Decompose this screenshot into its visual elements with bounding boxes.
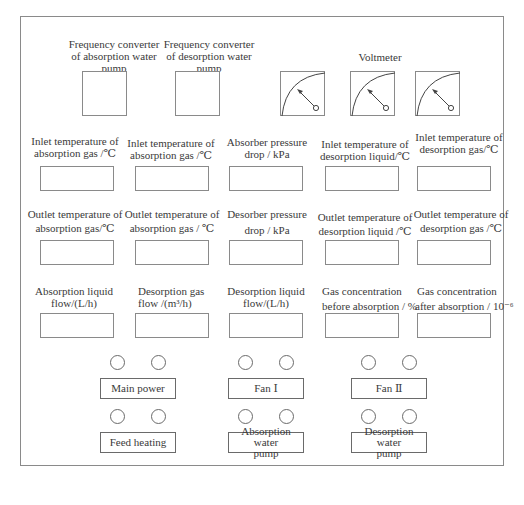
inlet-temp-absorption-gas-display-2[interactable] (135, 166, 209, 191)
fan-1-lamp-1[interactable] (238, 355, 253, 370)
absorption-liquid-flow-display[interactable] (40, 313, 114, 338)
inlet-temp-desorption-liquid-display[interactable] (325, 166, 399, 191)
converter-desorption-display[interactable] (175, 71, 220, 116)
inlet-temp-absorption-gas-display[interactable] (40, 166, 114, 191)
label-line: Frequency converter (64, 38, 164, 50)
voltmeter-gauge-3 (415, 71, 460, 116)
display-label: Gas concentrationafter absorption / 10⁻⁶ (415, 285, 519, 312)
voltmeter-gauge-2 (350, 71, 395, 116)
label-line: of absorption water (64, 50, 164, 62)
desorption-pump-lamp-1[interactable] (361, 409, 376, 424)
label-line: of desorption water (159, 50, 259, 62)
absorption-water-pump-button[interactable]: Absorption waterpump (228, 432, 304, 453)
absorption-pump-lamp-2[interactable] (279, 409, 294, 424)
display-label: Outlet temperature ofdesorption gas /℃ (404, 208, 518, 234)
absorber-pressure-drop-display[interactable] (229, 166, 303, 191)
display-label: Absorption liquidflow/(L/h) (24, 285, 124, 309)
gas-concentration-before-display[interactable] (325, 313, 399, 338)
display-label: Desorber pressuredrop / kPa (214, 208, 320, 236)
converter-absorption-display[interactable] (82, 71, 127, 116)
gauge-icon (416, 72, 461, 117)
main-power-button[interactable]: Main power (100, 378, 176, 399)
display-label: Absorber pressuredrop / kPa (214, 136, 320, 160)
display-label: Desorption liquidflow/(L/h) (216, 285, 316, 309)
desorption-gas-flow-display[interactable] (135, 313, 209, 338)
outlet-temp-desorption-liquid-display[interactable] (325, 240, 399, 265)
gauge-icon (281, 72, 326, 117)
fan-2-lamp-1[interactable] (361, 355, 376, 370)
fan-1-lamp-2[interactable] (279, 355, 294, 370)
fan-2-lamp-2[interactable] (402, 355, 417, 370)
absorption-pump-lamp-1[interactable] (238, 409, 253, 424)
fan-1-button[interactable]: Fan Ⅰ (228, 378, 304, 399)
main-power-lamp-1[interactable] (110, 355, 125, 370)
main-power-lamp-2[interactable] (151, 355, 166, 370)
outlet-temp-absorption-gas-display-2[interactable] (135, 240, 209, 265)
desorber-pressure-drop-display[interactable] (229, 240, 303, 265)
voltmeter-gauge-1 (280, 71, 325, 116)
feed-heating-lamp-2[interactable] (151, 409, 166, 424)
voltmeter-label: Voltmeter (340, 51, 420, 63)
inlet-temp-desorption-gas-display[interactable] (417, 166, 491, 191)
display-label: Gas concentrationbefore absorption / % (322, 285, 422, 312)
desorption-pump-lamp-2[interactable] (402, 409, 417, 424)
display-label: Inlet temperature ofdesorption gas/℃ (404, 131, 514, 155)
feed-heating-button[interactable]: Feed heating (100, 432, 176, 453)
display-label: Outlet temperature ofabsorption gas / ℃ (117, 208, 227, 234)
gas-concentration-after-display[interactable] (417, 313, 491, 338)
desorption-liquid-flow-display[interactable] (229, 313, 303, 338)
fan-2-button[interactable]: Fan Ⅱ (351, 378, 427, 399)
display-label: Inlet temperature ofabsorption gas /℃ (22, 135, 128, 159)
display-label: Outlet temperature ofabsorption gas/℃ (20, 208, 130, 234)
outlet-temp-absorption-gas-display[interactable] (40, 240, 114, 265)
converter-desorption-label: Frequency converter of desorption water … (159, 38, 259, 74)
display-label: Inlet temperature ofabsorption gas /℃ (118, 137, 224, 161)
desorption-water-pump-button[interactable]: Desorption waterpump (351, 432, 427, 453)
gauge-icon (351, 72, 396, 117)
label-line: Frequency converter (159, 38, 259, 50)
feed-heating-lamp-1[interactable] (110, 409, 125, 424)
display-label: Desorption gasflow /(m³/h) (124, 285, 204, 309)
converter-absorption-label: Frequency converter of absorption water … (64, 38, 164, 74)
outlet-temp-desorption-gas-display[interactable] (417, 240, 491, 265)
